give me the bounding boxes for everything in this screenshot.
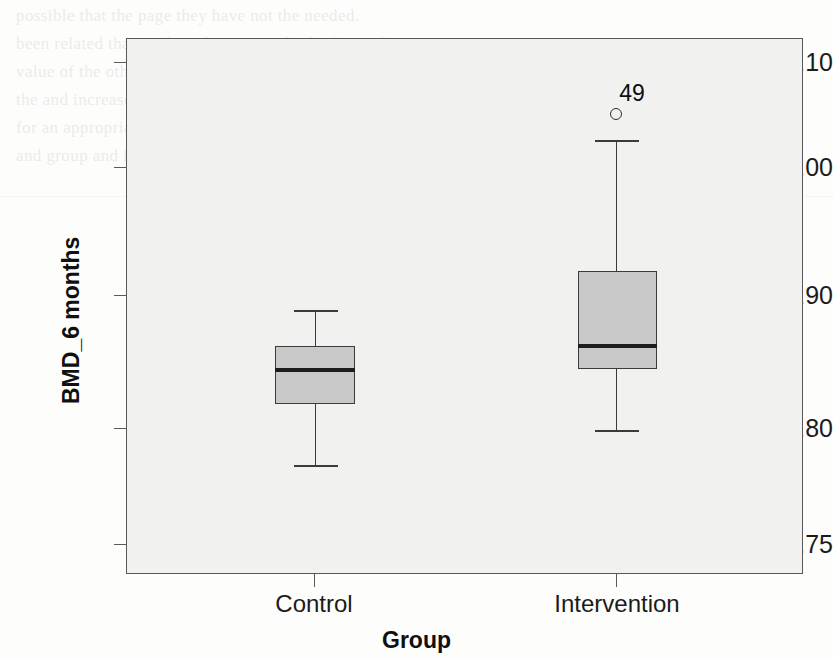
chart-page: possible that the page they have not the…	[0, 0, 833, 661]
whisker-line-upper	[315, 310, 316, 346]
x-tick-mark	[616, 574, 617, 587]
median-line	[275, 368, 355, 372]
box-iqr[interactable]	[275, 346, 355, 404]
whisker-cap-lower	[294, 465, 338, 467]
x-tick-label-intervention: Intervention	[554, 592, 679, 616]
whisker-cap-upper	[294, 310, 338, 312]
plot-inner	[127, 39, 802, 573]
whisker-line-upper	[616, 140, 617, 271]
x-tick-label-control: Control	[275, 592, 352, 616]
x-axis-title: Group	[0, 627, 833, 654]
outlier-point[interactable]	[610, 108, 622, 120]
whisker-cap-lower	[595, 430, 639, 432]
bleed-line: possible that the page they have not the…	[16, 6, 360, 25]
outlier-case-label: 49	[619, 82, 645, 105]
whisker-line-lower	[315, 404, 316, 465]
plot-area	[126, 38, 803, 574]
x-tick-mark	[314, 574, 315, 587]
whisker-line-lower	[616, 369, 617, 430]
whisker-cap-upper	[595, 140, 639, 142]
median-line	[578, 344, 657, 348]
y-axis-title: BMD_6 months	[58, 237, 85, 404]
box-iqr[interactable]	[578, 271, 657, 369]
